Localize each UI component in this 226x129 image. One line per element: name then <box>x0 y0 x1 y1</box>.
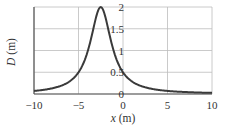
chart-svg: −10−50510 00.511.52 x (m) D (m) <box>0 0 226 129</box>
x-tick-label: 5 <box>165 99 171 111</box>
x-tick-label: −10 <box>25 99 43 111</box>
y-tick-label: 0.5 <box>110 66 124 78</box>
x-tick-label: 0 <box>120 99 126 111</box>
y-tick-label: 0 <box>119 88 125 100</box>
x-tick-labels: −10−50510 <box>25 99 218 111</box>
x-axis-label: x (m) <box>110 112 136 125</box>
x-tick-label: −5 <box>73 99 85 111</box>
x-tick-label: 10 <box>207 99 219 111</box>
y-tick-label: 2 <box>119 1 125 13</box>
y-axis-label: D (m) <box>5 38 18 67</box>
y-tick-label: 1 <box>119 45 125 57</box>
y-tick-label: 1.5 <box>110 23 124 35</box>
